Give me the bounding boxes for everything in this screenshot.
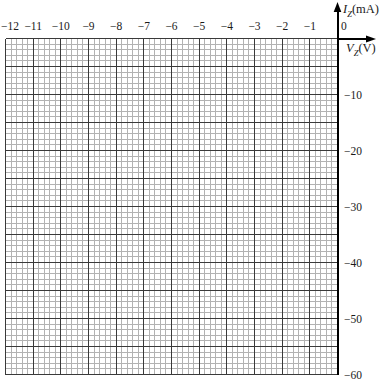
- x-tick-label: −2: [276, 20, 288, 33]
- x-tick-label: −7: [138, 20, 150, 33]
- x-tick-label: −8: [110, 20, 122, 33]
- y-tick-label: −60: [344, 368, 362, 381]
- zener-characteristic-blank-graph: −12−11−10−9−8−7−6−5−4−3−2−1 −10−20−30−40…: [0, 0, 384, 392]
- x-tick-label: −3: [248, 20, 260, 33]
- y-tick-label: −40: [344, 256, 362, 269]
- vz-axis-title: VZ(V): [346, 41, 376, 55]
- vz-symbol: V: [346, 41, 354, 55]
- y-tick-label: −30: [344, 200, 362, 213]
- x-tick-label: −11: [24, 20, 42, 33]
- y-tick-label: −10: [344, 88, 362, 101]
- x-tick-label: −12: [1, 20, 19, 33]
- x-tick-label: −6: [165, 20, 177, 33]
- vz-unit: (V): [358, 41, 375, 55]
- x-tick-label: −4: [221, 20, 233, 33]
- iz-unit: (mA): [352, 2, 379, 16]
- iz-axis-title: IZ(mA): [343, 2, 379, 16]
- origin-tick-label: 0: [341, 20, 347, 33]
- x-tick-label: −10: [52, 20, 70, 33]
- x-tick-label: −1: [304, 20, 316, 33]
- y-tick-label: −20: [344, 144, 362, 157]
- up-arrowhead-icon: [334, 2, 342, 12]
- x-tick-label: −9: [82, 20, 94, 33]
- y-tick-label: −50: [344, 312, 362, 325]
- x-tick-label: −5: [193, 20, 205, 33]
- graph-paper-plot-area: [0, 0, 384, 392]
